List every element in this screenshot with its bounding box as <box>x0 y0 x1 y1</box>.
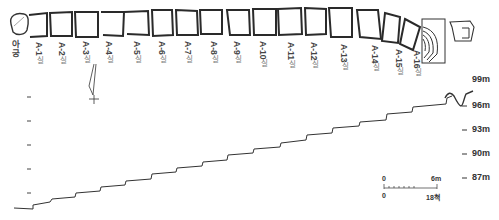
chamber-label-a3: A-3실 <box>81 41 90 63</box>
scale-bar <box>384 184 437 189</box>
chamber-label-a6: A-6실 <box>157 41 166 63</box>
chamber-label-a12: A-12실 <box>309 42 318 68</box>
right-ticks <box>462 106 467 178</box>
chamber-label-a2: A-2실 <box>57 42 66 64</box>
elevation-96m: 96m <box>472 100 490 110</box>
chamber-label-a8: A-8실 <box>209 41 218 63</box>
chamber-label-a5: A-5실 <box>132 41 141 63</box>
section-marker <box>89 64 99 104</box>
chamber-label-a14: A-14실 <box>370 45 379 71</box>
elevation-99m: 99m <box>472 74 490 84</box>
chamber-label-a11: A-11실 <box>286 42 295 68</box>
chamber-label-a10: A-10실 <box>258 41 267 67</box>
chamber-label-a15: A-15실 <box>394 49 403 75</box>
scale-bottom-start: 0 <box>382 192 386 199</box>
kiln-drawing <box>0 0 499 220</box>
chamber-label-a13: A-13실 <box>339 44 348 70</box>
left-ticks <box>27 97 31 193</box>
flue-structure <box>422 19 474 63</box>
scale-top-start: 0 <box>382 175 386 182</box>
firebox-outline <box>11 13 29 34</box>
elevation-87m: 87m <box>472 172 490 182</box>
scale-bottom-end: 18척 <box>426 192 440 202</box>
chamber-label-a4: A-4실 <box>104 41 113 63</box>
floor-profile <box>14 96 452 209</box>
elevation-93m: 93m <box>472 124 490 134</box>
chamber-label-a9: A-9실 <box>232 41 241 63</box>
scale-top-end: 6m <box>431 175 441 182</box>
firebox-label: 아궁 <box>10 40 19 58</box>
elevation-90m: 90m <box>472 148 490 158</box>
chamber-label-a1: A-1실 <box>34 42 43 64</box>
chamber-label-a16: A-16실 <box>412 50 421 76</box>
firebox-hatch <box>14 17 24 26</box>
chamber-label-a7: A-7실 <box>183 41 192 63</box>
flue-pit-profile <box>445 91 473 106</box>
